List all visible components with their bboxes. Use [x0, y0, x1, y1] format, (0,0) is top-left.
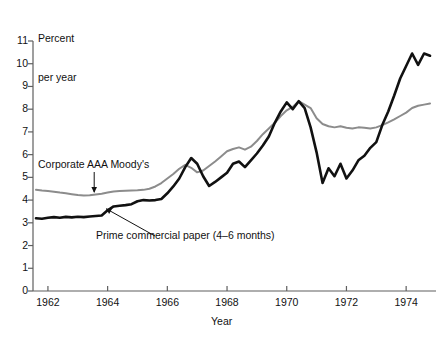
prime-paper-leader-line	[106, 209, 155, 236]
interest-rate-line-chart: Percent per year Year Corporate AAA Mood…	[0, 0, 446, 339]
plot-area	[0, 0, 446, 339]
corporate-aaa-leader-arrowhead	[91, 187, 97, 193]
